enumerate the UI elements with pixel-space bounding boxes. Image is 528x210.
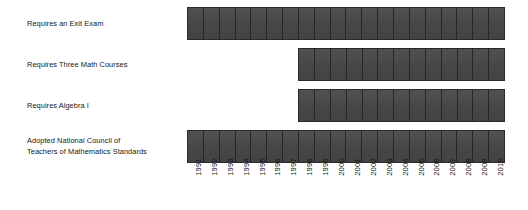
row-label-requires-an-exit-exam: Requires an Exit Exam [27,19,187,30]
timeline-bar-cell [251,8,267,39]
x-axis-tick-label: 2000 [338,158,346,176]
x-axis-tick-label: 2003 [386,158,394,176]
timeline-bar-cell [458,49,474,80]
timeline-bar-cell [489,49,504,80]
timeline-bar-cell [331,8,347,39]
x-axis-tick: 2009 [473,166,489,210]
x-axis-tick-label: 1992 [211,158,219,176]
x-axis-tick-label: 2001 [354,158,362,176]
timeline-bar-cell [457,8,473,39]
timeline-bar-cell [489,90,504,121]
x-axis-tick-label: 1993 [227,158,235,176]
x-axis-tick: 1999 [314,166,330,210]
x-axis-tick: 1997 [282,166,298,210]
timeline-bar-cell [363,90,379,121]
timeline-bar-cell [473,8,489,39]
x-axis-tick: 2006 [426,166,442,210]
x-axis-tick: 1994 [235,166,251,210]
x-axis-tick: 2001 [346,166,362,210]
x-axis-tick: 2000 [330,166,346,210]
timeline-bar-chart: Requires an Exit Exam Requires Three Mat… [0,0,528,210]
timeline-bar-cell [236,8,252,39]
timeline-bar-cell [426,49,442,80]
row-label-adopted-nctm-standards: Adopted National Council of Teachers of … [27,136,187,157]
x-axis-tick: 2002 [362,166,378,210]
row-label-requires-algebra-i: Requires Algebra I [27,101,187,112]
x-axis-tick: 2003 [378,166,394,210]
x-axis-tick-label: 2007 [449,158,457,176]
timeline-bar-cell [426,90,442,121]
x-axis-tick: 1992 [203,166,219,210]
timeline-bar-cell [473,49,489,80]
x-axis-tick-label: 1991 [195,158,203,176]
timeline-bar-cell [315,8,331,39]
bar-row-requires-an-exit-exam [187,7,505,40]
timeline-bar-cell [394,49,410,80]
timeline-bar-cell [442,49,458,80]
x-axis-tick-label: 2006 [433,158,441,176]
x-axis-tick: 2010 [489,166,505,210]
timeline-bar-cell [299,49,315,80]
x-axis-tick: 1995 [251,166,267,210]
x-axis-tick: 1991 [187,166,203,210]
timeline-bar-cell [347,90,363,121]
timeline-bar-cell [410,49,426,80]
x-axis-tick-label: 1998 [306,158,314,176]
timeline-bar-cell [378,49,394,80]
timeline-bar [187,7,505,40]
x-axis-tick-label: 2008 [465,158,473,176]
x-axis-tick-label: 2005 [418,158,426,176]
timeline-bar-cell [299,90,315,121]
x-axis-tick-label: 2004 [402,158,410,176]
x-axis-tick: 1993 [219,166,235,210]
x-axis-tick-label: 2009 [481,158,489,176]
timeline-bar-cell [204,8,220,39]
x-axis-tick: 2005 [410,166,426,210]
x-axis-tick-label: 1995 [259,158,267,176]
bar-row-requires-algebra-i [187,89,505,122]
row-label-requires-three-math-courses: Requires Three Math Courses [27,60,187,71]
timeline-bar-cell [473,90,489,121]
timeline-bar-cell [283,8,299,39]
timeline-bar-cell [188,8,204,39]
timeline-bar-cell [394,90,410,121]
x-axis-tick-label: 1996 [274,158,282,176]
bar-row-requires-three-math-courses [187,48,505,81]
timeline-bar [298,89,505,122]
x-axis-tick: 2008 [457,166,473,210]
timeline-bar-cell [394,8,410,39]
x-axis: 1991199219931994199519961997199819992000… [187,166,505,210]
timeline-bar-cell [410,8,426,39]
x-axis-tick: 2007 [441,166,457,210]
plot-area [187,0,505,166]
x-axis-tick-label: 1997 [290,158,298,176]
timeline-bar-cell [220,8,236,39]
timeline-bar [298,48,505,81]
timeline-bar-cell [315,90,331,121]
timeline-bar-cell [346,8,362,39]
timeline-bar-cell [362,8,378,39]
timeline-bar-cell [442,8,458,39]
timeline-bar-cell [489,8,504,39]
timeline-bar-cell [299,8,315,39]
x-axis-tick-label: 2010 [497,158,505,176]
x-axis-tick: 2004 [394,166,410,210]
timeline-bar-cell [378,90,394,121]
x-axis-tick: 1996 [267,166,283,210]
timeline-bar-cell [458,90,474,121]
timeline-bar-cell [426,8,442,39]
timeline-bar-cell [410,90,426,121]
x-axis-tick-label: 1994 [243,158,251,176]
timeline-bar-cell [363,49,379,80]
x-axis-tick-label: 2002 [370,158,378,176]
timeline-bar-cell [442,90,458,121]
timeline-bar-cell [331,49,347,80]
timeline-bar-cell [347,49,363,80]
timeline-bar-cell [267,8,283,39]
x-axis-tick: 1998 [298,166,314,210]
timeline-bar-cell [315,49,331,80]
x-axis-tick-label: 1999 [322,158,330,176]
timeline-bar-cell [378,8,394,39]
timeline-bar-cell [331,90,347,121]
